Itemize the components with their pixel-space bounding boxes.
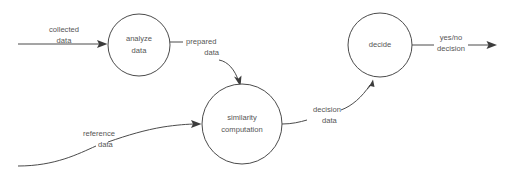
analyze-data-label-line2: data bbox=[132, 46, 148, 55]
decision-data-label-line1: decision bbox=[313, 105, 341, 114]
process-similarity-computation[interactable]: similarity computation bbox=[202, 84, 282, 164]
flow-yesno-decision: yes/no decision bbox=[412, 33, 497, 53]
reference-data-label-line1: reference bbox=[83, 129, 115, 138]
prepared-data-label-line1: prepared bbox=[186, 37, 216, 46]
collected-data-label-line2: data bbox=[57, 36, 73, 45]
flow-decision-data: decision data bbox=[282, 80, 375, 126]
collected-data-label-line1: collected bbox=[49, 25, 79, 34]
similarity-computation-circle[interactable] bbox=[202, 84, 282, 164]
similarity-computation-label-line1: similarity bbox=[227, 113, 257, 122]
decision-data-arrowhead bbox=[367, 80, 375, 91]
data-flow-diagram: collected data analyze data prepared dat… bbox=[0, 0, 513, 173]
decision-data-curve bbox=[341, 85, 370, 110]
reference-data-label-line2: data bbox=[98, 140, 114, 149]
flow-collected-data: collected data bbox=[18, 25, 108, 48]
yesno-decision-label-line2: decision bbox=[437, 44, 465, 53]
prepared-data-label-line2: data bbox=[204, 48, 220, 57]
reference-data-line-lower bbox=[18, 146, 96, 166]
process-analyze-data[interactable]: analyze data bbox=[108, 14, 170, 76]
process-decide[interactable]: decide bbox=[348, 13, 412, 77]
similarity-computation-label-line2: computation bbox=[221, 125, 262, 134]
yesno-decision-label-line1: yes/no bbox=[440, 33, 462, 42]
decision-data-stub bbox=[282, 120, 307, 124]
diagram-canvas: collected data analyze data prepared dat… bbox=[0, 0, 513, 173]
analyze-data-label-line1: analyze bbox=[126, 34, 152, 43]
decide-label-line1: decide bbox=[369, 40, 391, 49]
flow-prepared-data: prepared data bbox=[170, 37, 242, 87]
reference-data-line-mid bbox=[108, 127, 163, 142]
decision-data-label-line2: data bbox=[322, 116, 338, 125]
flow-reference-data: reference data bbox=[18, 120, 202, 166]
analyze-data-circle[interactable] bbox=[108, 14, 170, 76]
